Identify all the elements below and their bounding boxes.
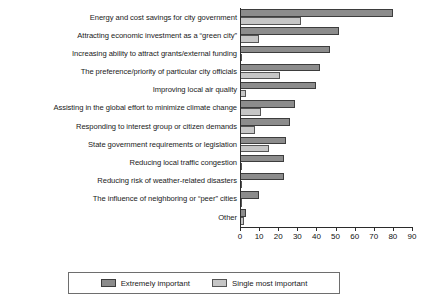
x-tick-label: 60 — [350, 232, 359, 241]
bar-single-most-important — [240, 17, 301, 24]
bar-chart: Energy and cost savings for city governm… — [0, 0, 427, 308]
y-axis-line — [240, 8, 241, 227]
category-label: State government requirements or legisla… — [0, 135, 240, 149]
x-tick — [393, 227, 394, 231]
bar-extremely-important — [240, 100, 295, 107]
bar-group — [240, 81, 424, 99]
bar-group — [240, 208, 424, 226]
bar-extremely-important — [240, 137, 286, 144]
x-tick — [240, 227, 241, 231]
bar-group — [240, 172, 424, 190]
chart-row: Energy and cost savings for city governm… — [0, 8, 427, 26]
x-tick-label: 10 — [255, 232, 264, 241]
chart-legend: Extremely importantSingle most important — [68, 272, 340, 294]
bar-single-most-important — [240, 145, 269, 152]
x-axis-line — [240, 227, 412, 228]
category-label: Assisting in the global effort to minimi… — [0, 99, 240, 113]
legend-label: Extremely important — [121, 279, 190, 288]
bar-group — [240, 135, 424, 153]
chart-row: The influence of neighboring or “peer” c… — [0, 190, 427, 208]
legend-swatch-icon — [212, 279, 227, 287]
bar-single-most-important — [240, 126, 255, 133]
x-tick — [355, 227, 356, 231]
x-tick — [412, 227, 413, 231]
bar-extremely-important — [240, 155, 284, 162]
category-label: Energy and cost savings for city governm… — [0, 8, 240, 22]
legend-item: Single most important — [212, 279, 307, 288]
bar-extremely-important — [240, 191, 259, 198]
bar-extremely-important — [240, 118, 290, 125]
bar-group — [240, 44, 424, 62]
legend-item: Extremely important — [101, 279, 190, 288]
legend-swatch-icon — [101, 279, 116, 287]
x-tick — [259, 227, 260, 231]
x-tick — [316, 227, 317, 231]
category-label: Reducing risk of weather-related disaste… — [0, 172, 240, 186]
bar-group — [240, 117, 424, 135]
chart-row: Other — [0, 208, 427, 226]
category-label: Responding to interest group or citizen … — [0, 117, 240, 131]
category-label: The preference/priority of particular ci… — [0, 63, 240, 77]
chart-row: Improving local air quality — [0, 81, 427, 99]
x-tick — [336, 227, 337, 231]
chart-row: Reducing local traffic congestion — [0, 154, 427, 172]
bar-group — [240, 26, 424, 44]
x-tick-label: 50 — [331, 232, 340, 241]
chart-row: Increasing ability to attract grants/ext… — [0, 44, 427, 62]
x-tick-label: 90 — [408, 232, 417, 241]
bar-group — [240, 8, 424, 26]
chart-row: Responding to interest group or citizen … — [0, 117, 427, 135]
category-label: Other — [0, 208, 240, 222]
plot-area: Energy and cost savings for city governm… — [0, 8, 427, 236]
bar-group — [240, 99, 424, 117]
category-label: Attracting economic investment as a “gre… — [0, 26, 240, 40]
bar-extremely-important — [240, 27, 339, 34]
x-tick-label: 40 — [312, 232, 321, 241]
x-tick-label: 80 — [388, 232, 397, 241]
bar-group — [240, 63, 424, 81]
bar-single-most-important — [240, 72, 280, 79]
chart-row: State government requirements or legisla… — [0, 135, 427, 153]
chart-row: Reducing risk of weather-related disaste… — [0, 172, 427, 190]
legend-label: Single most important — [232, 279, 307, 288]
bar-group — [240, 190, 424, 208]
chart-rows: Energy and cost savings for city governm… — [0, 8, 427, 226]
x-tick-label: 0 — [238, 232, 242, 241]
x-tick — [278, 227, 279, 231]
x-tick — [374, 227, 375, 231]
category-label: Improving local air quality — [0, 81, 240, 95]
x-tick — [297, 227, 298, 231]
bar-extremely-important — [240, 173, 284, 180]
bar-extremely-important — [240, 46, 330, 53]
bar-extremely-important — [240, 82, 316, 89]
bar-group — [240, 154, 424, 172]
bar-single-most-important — [240, 35, 259, 42]
x-tick-label: 30 — [293, 232, 302, 241]
chart-row: Assisting in the global effort to minimi… — [0, 99, 427, 117]
x-tick-label: 70 — [369, 232, 378, 241]
bar-extremely-important — [240, 9, 393, 16]
bar-extremely-important — [240, 64, 320, 71]
bar-single-most-important — [240, 108, 261, 115]
chart-row: The preference/priority of particular ci… — [0, 63, 427, 81]
category-label: Reducing local traffic congestion — [0, 154, 240, 168]
category-label: Increasing ability to attract grants/ext… — [0, 44, 240, 58]
category-label: The influence of neighboring or “peer” c… — [0, 190, 240, 204]
chart-row: Attracting economic investment as a “gre… — [0, 26, 427, 44]
x-tick-label: 20 — [274, 232, 283, 241]
